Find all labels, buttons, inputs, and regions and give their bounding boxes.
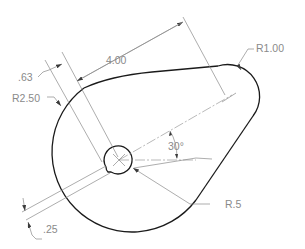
dim-large-radius-label: R2.50 [12, 92, 40, 104]
dim-angle-label: 30° [168, 140, 184, 152]
dim-hole-radius-label: R.5 [225, 198, 242, 210]
technical-drawing: 4.00 .63 R2.50 R1.00 30° R.5 .25 [0, 0, 305, 249]
dim-small-radius-label: R1.00 [256, 42, 284, 54]
dim-length-label: 4.00 [106, 54, 127, 66]
keyway-extension-lines [22, 166, 110, 239]
dim-keyway-width-label: .25 [43, 223, 58, 235]
offset-dimension [38, 52, 118, 162]
length-dimension [77, 17, 225, 95]
dim-keyway-offset-label: .63 [18, 71, 33, 83]
